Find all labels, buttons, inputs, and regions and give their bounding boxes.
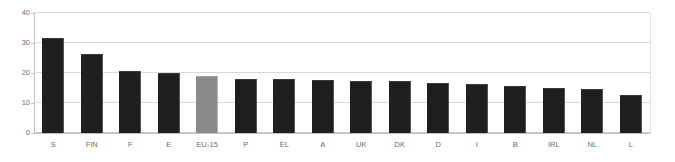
bar-dk [389, 81, 411, 133]
x-label-dk: DK [378, 141, 422, 149]
x-label-l: L [609, 141, 653, 149]
bar-fin [81, 54, 103, 134]
bar-nl [581, 89, 603, 133]
plot-area [34, 13, 650, 133]
bar-fill [158, 73, 180, 133]
x-label-fin: FIN [70, 141, 114, 149]
gridline-30 [34, 42, 650, 43]
bar-fill [235, 79, 257, 133]
bar-fill [42, 38, 64, 133]
bar-fill [427, 83, 449, 133]
bar-l [620, 95, 642, 133]
x-axis-line [34, 133, 651, 134]
bar-b [504, 86, 526, 133]
bar-s [42, 38, 64, 133]
bar-eu-15 [196, 76, 218, 133]
y-tick-label-20: 20 [6, 69, 30, 77]
bar-uk [350, 81, 372, 133]
bar-fill [581, 89, 603, 133]
bar-chart: 010203040 SFINFEEU-15PELAUKDKDIBIRLNLL [0, 0, 675, 162]
y-tick-label-0: 0 [6, 129, 30, 137]
bar-fill [466, 84, 488, 133]
bar-f [119, 71, 141, 133]
bar-fill [119, 71, 141, 133]
bar-fill [543, 88, 565, 133]
x-label-irl: IRL [532, 141, 576, 149]
bar-p [235, 79, 257, 133]
y-tick-label-30: 30 [6, 39, 30, 47]
x-label-s: S [31, 141, 75, 149]
bar-irl [543, 88, 565, 133]
y-tick-label-40: 40 [6, 9, 30, 17]
x-label-eu-15: EU-15 [185, 141, 229, 149]
x-label-a: A [301, 141, 345, 149]
bar-a [312, 80, 334, 133]
bar-fill [350, 81, 372, 133]
x-label-d: D [416, 141, 460, 149]
x-label-el: EL [262, 141, 306, 149]
x-label-uk: UK [339, 141, 383, 149]
x-label-i: I [455, 141, 499, 149]
bar-fill [620, 95, 642, 133]
bar-fill [81, 54, 103, 134]
bar-fill [196, 76, 218, 133]
bar-e [158, 73, 180, 133]
x-label-e: E [147, 141, 191, 149]
x-label-p: P [224, 141, 268, 149]
x-label-f: F [108, 141, 152, 149]
x-label-b: B [493, 141, 537, 149]
bar-i [466, 84, 488, 133]
y-tick-label-10: 10 [6, 99, 30, 107]
bar-d [427, 83, 449, 133]
bar-fill [504, 86, 526, 133]
bar-el [273, 79, 295, 133]
x-label-nl: NL [570, 141, 614, 149]
gridline-40 [34, 12, 650, 13]
bar-fill [389, 81, 411, 133]
bar-fill [312, 80, 334, 133]
plot-right-border [650, 13, 651, 134]
bar-fill [273, 79, 295, 133]
